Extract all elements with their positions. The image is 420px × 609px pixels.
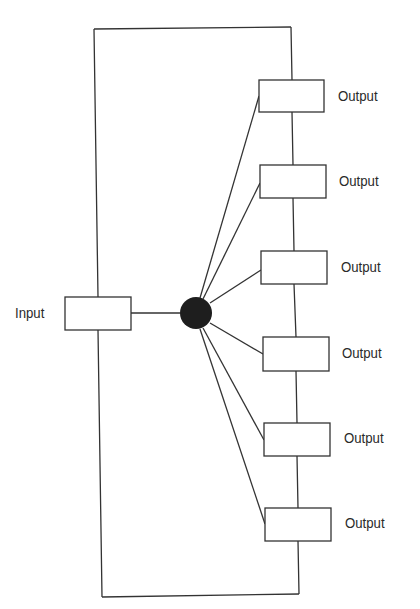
input-label: Input [15,304,44,321]
frame-top-edge [94,27,291,29]
fan-line-5 [203,328,264,440]
output-label-1: Output [338,87,378,104]
output-box-6 [265,508,331,541]
output-label-5: Output [344,429,384,446]
fan-line-4 [210,323,263,354]
output-box-5 [264,423,330,456]
output-box-4 [263,337,329,371]
fan-line-2 [203,183,260,299]
input-box [65,297,131,330]
output-label-4: Output [342,344,382,361]
output-label-2: Output [339,172,379,189]
frame-bottom-edge [102,594,299,597]
output-label-3: Output [341,258,381,275]
output-box-2 [260,165,326,198]
fan-line-1 [200,96,259,298]
fan-line-6 [200,329,265,524]
hub-node [180,297,212,329]
output-box-1 [259,80,324,112]
output-label-6: Output [345,514,385,531]
output-box-3 [261,251,327,284]
fan-line-3 [210,270,261,303]
